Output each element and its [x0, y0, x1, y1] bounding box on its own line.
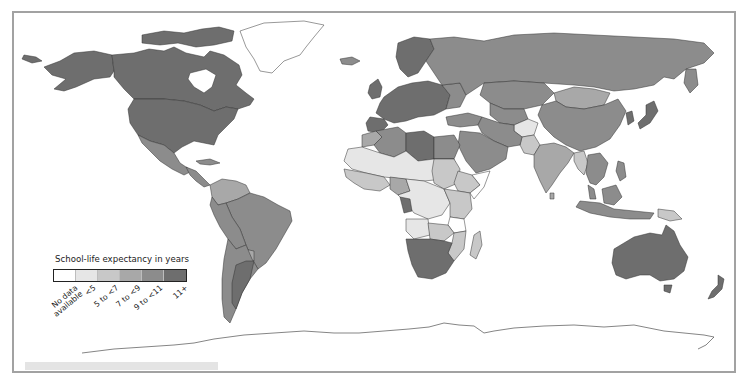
region-iceland	[340, 57, 360, 65]
region-philippines	[616, 161, 626, 181]
region-angola	[406, 219, 430, 239]
region-aleutians	[22, 55, 42, 63]
region-russia	[426, 33, 714, 95]
region-australia	[612, 225, 688, 281]
caption-bar	[25, 362, 218, 370]
region-papua-new-guinea	[658, 209, 682, 221]
region-tasmania	[664, 285, 672, 293]
legend-swatch-no-data	[54, 270, 76, 281]
region-egypt	[434, 135, 460, 159]
legend-color-bar	[53, 269, 187, 282]
region-turkey	[446, 113, 482, 127]
region-southern-africa	[406, 239, 454, 279]
legend-label-no-data: No data available	[47, 284, 84, 319]
region-borneo	[602, 185, 622, 205]
region-malaysia	[588, 185, 596, 199]
region-japan	[638, 101, 658, 129]
region-central-america	[186, 167, 210, 187]
legend-swatch-lt5	[76, 270, 98, 281]
region-argentina	[232, 261, 254, 309]
region-greenland	[240, 21, 324, 73]
legend-swatch-5-7	[98, 270, 120, 281]
region-canada-arctic-islands	[142, 27, 234, 47]
map-legend: School-life expectancy in years No data …	[52, 254, 192, 334]
region-sri-lanka	[550, 193, 554, 199]
region-myanmar	[574, 151, 588, 175]
region-indochina	[586, 153, 608, 185]
region-uk	[368, 79, 382, 99]
legend-swatch-11plus	[164, 270, 186, 281]
region-europe	[376, 81, 450, 123]
region-scandinavia	[396, 37, 434, 77]
region-korea	[626, 111, 634, 125]
region-new-zealand	[708, 275, 724, 299]
region-kamchatka	[684, 69, 698, 93]
legend-label-11plus: 11+	[171, 284, 189, 301]
region-india	[534, 143, 574, 193]
region-cuba	[196, 159, 220, 165]
region-gabon-congo	[400, 197, 412, 213]
legend-title: School-life expectancy in years	[55, 254, 189, 264]
region-madagascar	[470, 231, 482, 259]
region-alaska	[44, 51, 114, 91]
legend-swatch-9-11	[142, 270, 164, 281]
legend-label-lt5: <5	[83, 284, 97, 298]
legend-swatch-7-9	[120, 270, 142, 281]
